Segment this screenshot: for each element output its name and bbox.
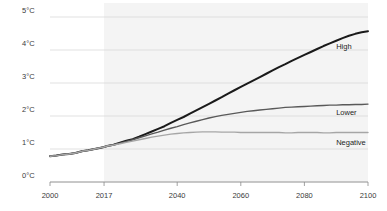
- chart-plot-area: [0, 0, 387, 211]
- series-label-high: High: [336, 43, 351, 51]
- y-tick-label: 2°C: [22, 106, 50, 114]
- y-tick-label: 0°C: [22, 172, 50, 180]
- x-tick-label: 2017: [84, 192, 124, 200]
- shaded-projection-region: [104, 3, 368, 182]
- y-tick-label: 1°C: [22, 139, 50, 147]
- series-label-negative: Negative: [336, 139, 366, 147]
- x-tick-label: 2040: [157, 192, 197, 200]
- x-tick-label: 2060: [221, 192, 261, 200]
- y-tick-label: 4°C: [22, 40, 50, 48]
- x-tick-label: 2100: [348, 192, 387, 200]
- x-axis-ticks: [50, 182, 368, 186]
- x-tick-label: 2000: [30, 192, 70, 200]
- y-tick-label: 3°C: [22, 73, 50, 81]
- series-label-lower: Lower: [336, 109, 356, 117]
- temperature-change-chart: Temperature change 0°C1°C2°C3°C4°C5°C 20…: [0, 0, 387, 211]
- y-tick-label: 5°C: [22, 7, 50, 15]
- x-tick-label: 2080: [284, 192, 324, 200]
